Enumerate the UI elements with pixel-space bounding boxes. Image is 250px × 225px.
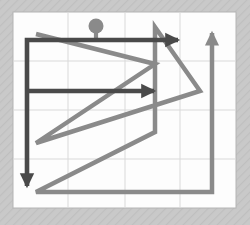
plot-canvas: [0, 0, 250, 225]
path-origin-dot: [89, 19, 104, 34]
screenshot-root: [0, 0, 250, 225]
